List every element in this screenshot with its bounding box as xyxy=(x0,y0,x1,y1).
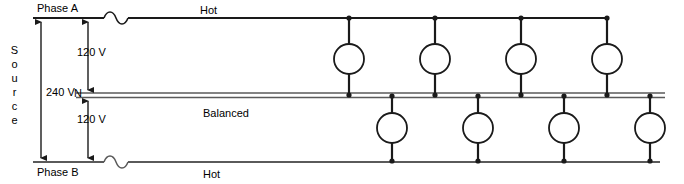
label-phase-a: Phase A xyxy=(37,3,78,14)
source-letter-2: u xyxy=(9,71,20,85)
junction-dot-neutral-2 xyxy=(432,92,437,97)
junction-dot-neutral-b1 xyxy=(389,93,394,98)
junction-dot-neutral-1 xyxy=(346,92,351,97)
load-symbol-top-2 xyxy=(420,44,450,74)
junction-dot-bottom-4 xyxy=(647,158,652,163)
source-letter-1: o xyxy=(9,57,20,71)
label-hot-top: Hot xyxy=(200,5,217,16)
load-bottom-3 xyxy=(549,93,579,163)
junction-dot-bottom-3 xyxy=(561,158,566,163)
junction-dot-bottom-2 xyxy=(475,158,480,163)
label-hot-bottom: Hot xyxy=(203,169,220,180)
label-voltage-120-upper: 120 V xyxy=(77,47,106,58)
label-voltage-240: 240 V xyxy=(46,87,75,98)
load-symbol-bottom-3 xyxy=(549,113,579,143)
junction-dot-neutral-b2 xyxy=(475,93,480,98)
label-balanced: Balanced xyxy=(203,108,249,119)
diagram-canvas xyxy=(0,0,684,184)
source-letter-4: c xyxy=(9,99,20,113)
label-voltage-120-lower: 120 V xyxy=(77,114,106,125)
load-bottom-4 xyxy=(635,93,665,163)
source-letter-0: S xyxy=(9,43,20,57)
junction-dot-top-3 xyxy=(518,15,523,20)
junction-dot-bottom-1 xyxy=(389,158,394,163)
source-letter-3: r xyxy=(9,85,20,99)
load-top-3 xyxy=(506,15,536,97)
junction-dot-top-1 xyxy=(346,15,351,20)
junction-dot-top-2 xyxy=(432,15,437,20)
load-branches-bottom xyxy=(377,93,665,163)
load-symbol-bottom-4 xyxy=(635,113,665,143)
label-source-vertical: Source xyxy=(9,43,20,127)
load-symbol-top-1 xyxy=(334,44,364,74)
label-neutral: N xyxy=(74,88,82,99)
load-symbol-top-4 xyxy=(592,44,622,74)
load-top-4 xyxy=(592,15,622,97)
load-symbol-bottom-2 xyxy=(463,113,493,143)
load-symbol-top-3 xyxy=(506,44,536,74)
load-top-2 xyxy=(420,15,450,97)
load-symbol-bottom-1 xyxy=(377,113,407,143)
load-branches-top xyxy=(334,15,622,97)
neutral-conductor xyxy=(76,93,665,98)
electrical-diagram: Phase A Phase B Hot Hot N 240 V 120 V 12… xyxy=(0,0,684,184)
load-bottom-1 xyxy=(377,93,407,163)
conductor-break-squiggle-top xyxy=(104,12,128,24)
junction-dot-neutral-b3 xyxy=(561,93,566,98)
label-phase-b: Phase B xyxy=(37,167,79,178)
junction-dot-neutral-3 xyxy=(518,92,523,97)
source-letter-5: e xyxy=(9,113,20,127)
junction-dot-top-4 xyxy=(604,15,609,20)
conductor-break-squiggle-bottom xyxy=(104,156,128,168)
load-bottom-2 xyxy=(463,93,493,163)
junction-dot-neutral-4 xyxy=(604,92,609,97)
load-top-1 xyxy=(334,15,364,97)
junction-dot-neutral-b4 xyxy=(647,93,652,98)
